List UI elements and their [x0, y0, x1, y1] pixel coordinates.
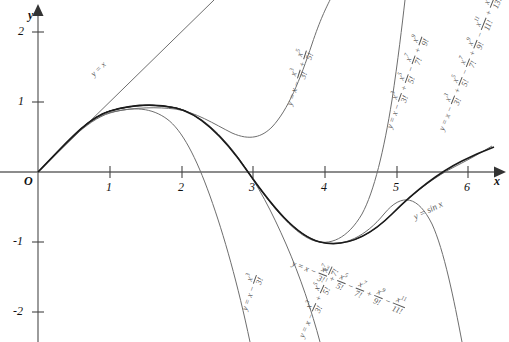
fraction: x77!: [353, 279, 368, 299]
x-tick-3: 3: [249, 180, 255, 195]
curve-T1: [38, 0, 214, 172]
y-axis-label: y: [28, 8, 33, 23]
x-tick-2: 2: [178, 180, 184, 195]
origin-label: O: [24, 174, 33, 189]
curve-T3: [38, 109, 250, 342]
x-tick-6: 6: [464, 180, 470, 195]
y-tick-2: 2: [18, 24, 24, 39]
x-tick-4: 4: [321, 180, 327, 195]
fraction: x33!: [289, 67, 309, 81]
fraction: x33!: [443, 92, 463, 107]
fraction: x99!: [465, 36, 485, 51]
curve-T7: [38, 105, 320, 342]
fraction: x1111!: [473, 14, 494, 33]
fraction: x77!: [458, 55, 478, 70]
y-tick-neg1: -1: [13, 234, 23, 249]
fraction: x33!: [304, 299, 324, 315]
fraction: x99!: [371, 287, 386, 307]
y-axis-arrow: [33, 4, 44, 16]
taylor-sine-chart: y x O 2 1 -1 -2 1 2 3 4 5 6 y = x y = x …: [0, 0, 509, 342]
fraction: x55!: [450, 73, 470, 88]
y-tick-1: 1: [18, 94, 24, 109]
fraction: x33!: [390, 90, 410, 105]
y-tick-neg2: -2: [13, 304, 23, 319]
x-tick-5: 5: [393, 180, 399, 195]
x-axis-label: x: [494, 174, 500, 189]
fraction: x33!: [315, 264, 330, 284]
curve-T13: [38, 105, 492, 243]
curve-sine: [38, 105, 494, 243]
fraction: x55!: [334, 272, 349, 292]
fraction: x55!: [397, 71, 417, 86]
fraction: x77!: [403, 52, 423, 67]
x-tick-1: 1: [106, 180, 112, 195]
